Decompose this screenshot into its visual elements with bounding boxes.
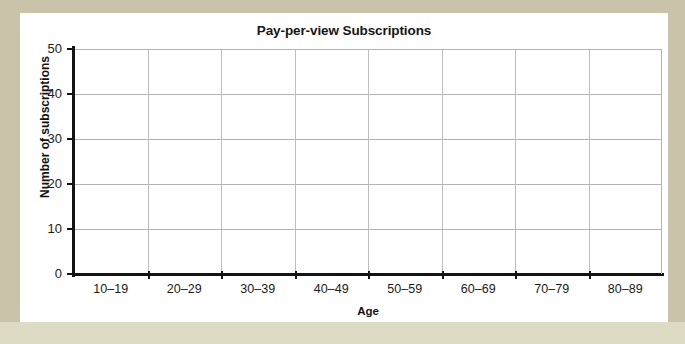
gridline-vertical <box>221 49 222 274</box>
x-axis-tick-label: 70–79 <box>515 283 589 296</box>
plot-area <box>74 49 662 274</box>
x-axis-tick <box>515 271 517 279</box>
x-axis-tick <box>148 271 150 279</box>
gridline-vertical <box>589 49 590 274</box>
y-axis-tick-label: 0 <box>20 267 62 280</box>
y-axis-tick-label: 50 <box>20 42 62 55</box>
plot-right-border <box>661 49 662 274</box>
y-axis-tick-label: 30 <box>20 132 62 145</box>
page-bottom-band <box>0 322 685 344</box>
y-axis-tick-label: 40 <box>20 87 62 100</box>
x-axis-tick-label: 30–39 <box>221 283 295 296</box>
x-axis-tick <box>442 271 444 279</box>
x-axis-tick-label: 50–59 <box>368 283 442 296</box>
gridline-vertical <box>295 49 296 274</box>
y-axis-tick <box>67 138 75 140</box>
x-axis-tick-label: 20–29 <box>147 283 221 296</box>
x-axis-tick <box>221 271 223 279</box>
gridline-vertical <box>148 49 149 274</box>
x-axis-tick <box>368 271 370 279</box>
y-axis-tick-label: 10 <box>20 222 62 235</box>
y-axis-tick <box>67 228 75 230</box>
y-axis-tick <box>67 273 75 275</box>
x-axis-title: Age <box>74 305 662 317</box>
x-axis-tick-label: 80–89 <box>588 283 662 296</box>
figure-panel: Pay-per-view Subscriptions Number of sub… <box>20 13 668 322</box>
page-background: Pay-per-view Subscriptions Number of sub… <box>0 0 685 344</box>
x-axis-tick <box>589 271 591 279</box>
y-axis-tick-label: 20 <box>20 177 62 190</box>
chart-title: Pay-per-view Subscriptions <box>20 23 668 38</box>
y-axis-tick <box>67 183 75 185</box>
y-axis-tick <box>67 48 75 50</box>
y-axis-title: Number of subscriptions <box>38 27 52 227</box>
x-axis-tick <box>295 271 297 279</box>
x-axis-tick-label: 40–49 <box>294 283 368 296</box>
gridline-vertical <box>368 49 369 274</box>
x-axis-tick-label: 10–19 <box>74 283 148 296</box>
y-axis-tick <box>67 93 75 95</box>
x-axis-tick-label: 60–69 <box>441 283 515 296</box>
gridline-vertical <box>442 49 443 274</box>
gridline-vertical <box>515 49 516 274</box>
